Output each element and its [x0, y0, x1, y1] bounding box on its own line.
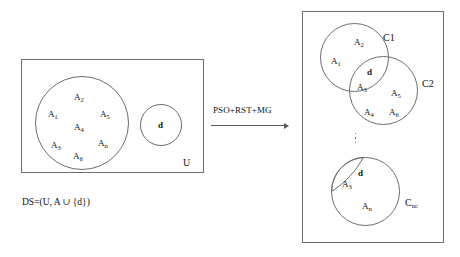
attribute-label-a4: A4: [74, 123, 84, 132]
vertical-ellipsis-icon: [355, 133, 356, 146]
right-arrow-icon: [284, 123, 289, 129]
cluster-c1-label-a1: A1: [331, 57, 341, 66]
attribute-label-a3: A3: [51, 141, 61, 150]
cluster-c2-label-a4: A4: [364, 108, 374, 117]
overlap-label-a3: A3: [357, 83, 367, 92]
decision-label-d: d: [158, 121, 163, 130]
cluster-c2-label-a5: A5: [391, 89, 401, 98]
cluster-cnc-label-an: An: [362, 202, 372, 211]
transform-label: PSO+RST+MG: [213, 105, 272, 115]
cluster-c2-label: C2: [422, 79, 434, 89]
cluster-cnc-decision-label-d: d: [358, 169, 363, 178]
transform-arrow-line: [211, 125, 285, 126]
cluster-c1-label: C1: [383, 33, 395, 43]
universe-label: U: [183, 158, 190, 168]
overlap-decision-label-d: d: [367, 68, 372, 77]
diagram-canvas: A2 A1 A5 A4 A3 An A6 d U DS=(U, A ∪ {d})…: [0, 0, 460, 257]
attribute-label-an: An: [98, 139, 108, 148]
cluster-c2-label-a6: A6: [389, 108, 399, 117]
attribute-label-a2: A2: [74, 93, 84, 102]
cluster-cnc-label-a3: A3: [342, 180, 352, 189]
decision-system-caption: DS=(U, A ∪ {d}): [22, 196, 90, 207]
attribute-label-a6: A6: [73, 152, 83, 161]
cluster-c1-label-a2: A2: [354, 38, 364, 47]
attribute-label-a1: A1: [48, 110, 58, 119]
attribute-label-a5: A5: [100, 110, 110, 119]
cluster-cnc-circle: [331, 157, 400, 226]
cluster-cnc-label: Cnc: [405, 198, 418, 208]
